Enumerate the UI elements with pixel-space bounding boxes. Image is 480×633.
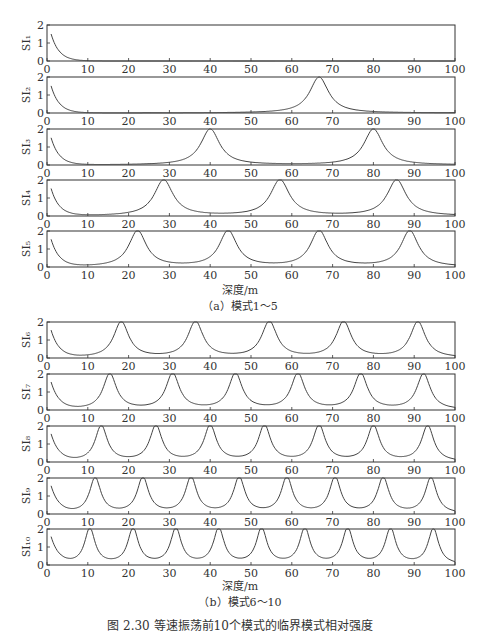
x-tick-label: 80 [366,63,380,76]
x-tick-label: 50 [244,360,258,373]
x-tick-label: 70 [326,360,340,373]
x-tick-label: 60 [285,412,299,425]
x-tick-label: 60 [285,63,299,76]
panel-si10: 0120102030405060708090100SI₁₀ [20,523,466,580]
x-tick-label: 0 [44,115,51,128]
x-tick-label: 20 [122,360,136,373]
x-tick-label: 20 [122,167,136,180]
x-tick-label: 90 [407,167,421,180]
x-tick-label: 20 [122,63,136,76]
x-tick-label: 30 [162,115,176,128]
y-tick-label: 2 [37,19,44,32]
x-tick-label: 100 [445,218,466,231]
x-tick-label: 0 [44,516,51,529]
x-tick-label: 60 [285,464,299,477]
x-tick-label: 10 [81,516,95,529]
xlabel-a: 深度/m [0,281,480,297]
x-tick-label: 10 [81,360,95,373]
panel-si3: 0120102030405060708090100SI₃ [20,123,466,180]
x-tick-label: 60 [285,516,299,529]
x-tick-label: 50 [244,115,258,128]
y-tick-label: 2 [37,174,44,187]
x-tick-label: 100 [445,516,466,529]
x-tick-label: 10 [81,218,95,231]
x-tick-label: 0 [44,63,51,76]
x-tick-label: 0 [44,412,51,425]
y-tick-label: 1 [37,438,44,451]
y-tick-label: 2 [37,316,44,329]
x-tick-label: 90 [407,464,421,477]
x-tick-label: 90 [407,115,421,128]
x-tick-label: 50 [244,516,258,529]
y-tick-label: 2 [37,420,44,433]
y-axis-label: SI₅ [20,241,33,257]
y-tick-label: 2 [37,71,44,84]
x-tick-label: 70 [326,218,340,231]
x-tick-label: 70 [326,115,340,128]
x-tick-label: 100 [445,464,466,477]
y-tick-label: 1 [37,37,44,50]
y-tick-label: 2 [37,472,44,485]
y-tick-label: 2 [37,368,44,381]
x-tick-label: 40 [203,167,217,180]
series-curve [51,426,455,459]
x-tick-label: 60 [285,167,299,180]
x-tick-label: 80 [366,516,380,529]
x-tick-label: 40 [203,115,217,128]
x-tick-label: 90 [407,63,421,76]
x-tick-label: 40 [203,516,217,529]
x-tick-label: 80 [366,360,380,373]
x-tick-label: 0 [44,218,51,231]
series-curve [51,231,455,265]
y-tick-label: 1 [37,541,44,554]
y-tick-label: 1 [37,89,44,102]
series-curve [51,77,455,113]
x-tick-label: 90 [407,360,421,373]
x-tick-label: 40 [203,218,217,231]
x-tick-label: 60 [285,115,299,128]
x-tick-label: 30 [162,516,176,529]
x-tick-label: 90 [407,218,421,231]
panel-si7: 0120102030405060708090100SI₇ [20,368,466,425]
y-axis-label: SI₁₀ [20,536,33,557]
x-tick-label: 30 [162,218,176,231]
x-tick-label: 0 [44,360,51,373]
y-tick-label: 1 [37,243,44,256]
x-tick-label: 80 [366,412,380,425]
x-tick-label: 10 [81,464,95,477]
x-tick-label: 10 [81,63,95,76]
x-tick-label: 100 [445,167,466,180]
y-tick-label: 1 [37,386,44,399]
x-tick-label: 70 [326,516,340,529]
panel-si5: 0120102030405060708090100SI₅ [20,225,466,282]
panel-si1: 0120102030405060708090100SI₁ [20,19,466,76]
x-tick-label: 80 [366,464,380,477]
panel-si6: 0120102030405060708090100SI₆ [20,316,466,373]
x-tick-label: 30 [162,63,176,76]
y-axis-label: SI₄ [20,189,33,206]
x-tick-label: 10 [81,167,95,180]
figure-caption: 图 2.30 等速振荡前10个模式的临界模式相对强度 [0,616,480,633]
x-tick-label: 40 [203,63,217,76]
x-tick-label: 20 [122,218,136,231]
x-tick-label: 0 [44,167,51,180]
y-tick-label: 1 [37,192,44,205]
x-tick-label: 80 [366,167,380,180]
series-curve [51,529,455,562]
x-tick-label: 40 [203,464,217,477]
x-tick-label: 70 [326,63,340,76]
y-axis-label: SI₂ [20,87,33,103]
x-tick-label: 70 [326,167,340,180]
series-curve [51,322,455,356]
y-axis-label: SI₆ [20,331,33,348]
x-tick-label: 30 [162,464,176,477]
x-tick-label: 50 [244,412,258,425]
x-tick-label: 60 [285,218,299,231]
x-tick-label: 100 [445,360,466,373]
y-tick-label: 2 [37,225,44,238]
x-tick-label: 100 [445,412,466,425]
y-axis-label: SI₈ [20,435,33,452]
series-curve [51,180,455,215]
x-tick-label: 80 [366,115,380,128]
